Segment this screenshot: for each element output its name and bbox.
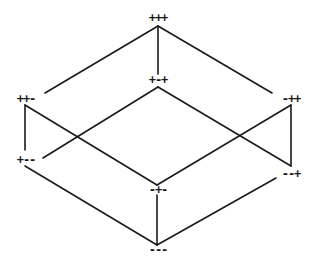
edge bbox=[158, 87, 291, 166]
node-label: -++ bbox=[282, 92, 301, 106]
node-label: --- bbox=[149, 243, 168, 257]
edge bbox=[43, 87, 158, 158]
edge bbox=[158, 26, 272, 93]
node-label: --+ bbox=[282, 167, 301, 181]
edge bbox=[157, 178, 276, 245]
edge bbox=[45, 26, 158, 93]
node-label: +-+ bbox=[149, 73, 168, 87]
edge bbox=[157, 105, 291, 185]
edge bbox=[25, 105, 157, 185]
node-label: ++- bbox=[17, 92, 36, 106]
lattice-diagram: ++++-+++--+++----+-+---- bbox=[0, 0, 315, 267]
node-label: -+- bbox=[149, 183, 168, 197]
node-label: +-- bbox=[17, 153, 36, 167]
node-label: +++ bbox=[149, 11, 168, 25]
edges-group bbox=[25, 26, 291, 245]
labels-group: ++++-+++--+++----+-+---- bbox=[17, 11, 301, 257]
edge bbox=[25, 166, 157, 245]
